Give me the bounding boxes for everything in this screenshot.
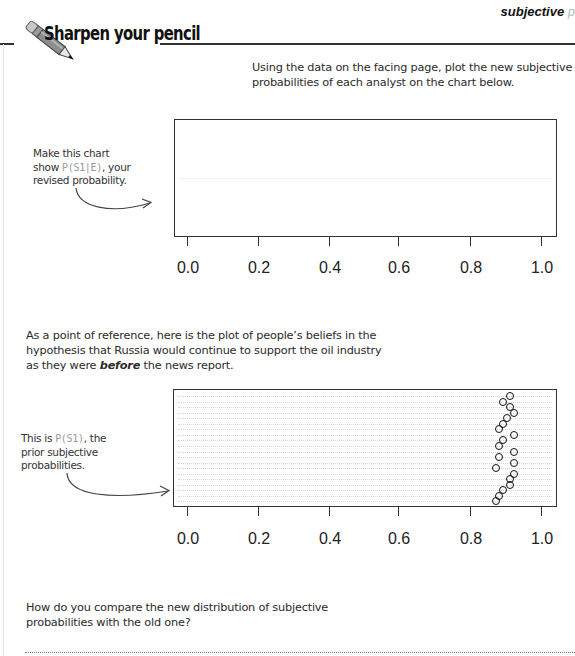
annotation-prior: This is P(S1), the prior subjective prob…: [21, 432, 106, 473]
formula-posterior: P(S1|E): [62, 162, 102, 173]
arrow-icon: [62, 470, 174, 502]
data-point: [495, 442, 503, 450]
grid-line: [178, 435, 552, 436]
data-point: [492, 497, 500, 505]
annotation-posterior: Make this chart show P(S1|E), your revis…: [33, 147, 131, 188]
axis-tick: [398, 507, 399, 516]
posterior-chart-guide-line: [179, 178, 552, 179]
data-point: [506, 481, 514, 489]
page-heading: Sharpen your pencil: [44, 22, 200, 44]
grid-line: [178, 418, 552, 419]
axis-tick: [470, 237, 471, 246]
grid-line: [178, 396, 552, 397]
grid-line: [178, 402, 552, 403]
annotation-posterior-line-2: show P(S1|E), your: [33, 161, 131, 175]
axis-tick: [329, 507, 330, 516]
instruction-line-1: Using the data on the facing page, plot …: [252, 60, 572, 75]
axis-tick-label: 0.2: [248, 530, 270, 548]
running-head-tail: p: [568, 4, 575, 19]
data-point: [510, 448, 518, 456]
emphasis-before: before: [100, 359, 140, 372]
annotation-posterior-line-1: Make this chart: [33, 147, 131, 161]
grid-line: [178, 440, 552, 441]
reference-line-2: hypothesis that Russia would continue to…: [26, 343, 381, 358]
instruction-text: Using the data on the facing page, plot …: [252, 60, 572, 90]
question-line-1: How do you compare the new distribution …: [26, 600, 328, 615]
grid-line: [178, 413, 552, 414]
axis-tick-label: 0.4: [319, 259, 341, 277]
axis-tick-label: 0.4: [319, 530, 341, 548]
axis-tick-label: 0.8: [460, 259, 482, 277]
axis-tick-label: 0.6: [388, 259, 410, 277]
axis-tick-label: 1.0: [531, 530, 553, 548]
axis-tick-label: 1.0: [531, 259, 553, 277]
posterior-chart-plot-area[interactable]: [174, 119, 557, 237]
axis-tick-label: 0.6: [388, 530, 410, 548]
axis-tick-label: 0.0: [177, 259, 199, 277]
data-point: [510, 459, 518, 467]
grid-line: [178, 490, 552, 491]
data-point: [506, 392, 514, 400]
axis-tick: [470, 507, 471, 516]
running-head-text: subjective: [501, 4, 565, 19]
grid-line: [178, 474, 552, 475]
question-text: How do you compare the new distribution …: [26, 600, 328, 630]
axis-tick: [329, 237, 330, 246]
margin-rule: [3, 44, 4, 656]
data-point: [510, 431, 518, 439]
data-point: [510, 409, 518, 417]
axis-tick: [258, 237, 259, 246]
reference-text: As a point of reference, here is the plo…: [26, 328, 381, 373]
data-point: [495, 453, 503, 461]
axis-tick-label: 0.8: [460, 530, 482, 548]
axis-tick-label: 0.0: [177, 530, 199, 548]
axis-tick: [187, 507, 188, 516]
annotation-prior-line-2: prior subjective: [21, 446, 106, 460]
running-head: subjective p: [501, 4, 575, 19]
axis-tick: [541, 237, 542, 246]
grid-line: [178, 479, 552, 480]
axis-tick: [258, 507, 259, 516]
reference-line-3: as they were before the news report.: [26, 358, 381, 373]
axis-tick: [541, 507, 542, 516]
prior-chart-plot-area: [173, 389, 557, 507]
data-point: [492, 464, 500, 472]
arrow-icon: [70, 185, 160, 221]
annotation-prior-line-1: This is P(S1), the: [21, 432, 106, 446]
axis-tick-label: 0.2: [248, 259, 270, 277]
reference-line-1: As a point of reference, here is the plo…: [26, 328, 381, 343]
grid-line: [178, 407, 552, 408]
formula-prior: P(S1): [55, 433, 84, 444]
axis-tick: [187, 237, 188, 246]
grid-line: [178, 452, 552, 453]
grid-line: [178, 485, 552, 486]
answer-line[interactable]: [25, 652, 575, 653]
question-line-2: probabilities with the old one?: [26, 615, 328, 630]
instruction-line-2: probabilities of each analyst on the cha…: [252, 75, 572, 90]
heading-rule-right: [160, 43, 575, 45]
grid-line: [178, 424, 552, 425]
axis-tick: [398, 237, 399, 246]
data-point: [495, 425, 503, 433]
